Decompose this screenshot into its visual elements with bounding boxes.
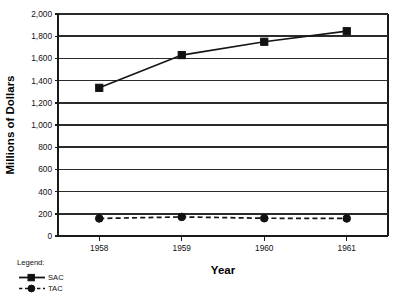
chart-container: 02004006008001,0001,2001,4001,6001,8002,… — [0, 0, 400, 298]
data-point-tac-1961 — [343, 215, 351, 223]
legend-entry-sac: SAC — [19, 273, 64, 282]
legend-label-sac: SAC — [48, 273, 64, 282]
y-axis-tick-label: 0 — [47, 231, 52, 241]
y-axis-title: Millions of Dollars — [4, 75, 16, 174]
data-point-sac-1958 — [96, 84, 103, 91]
data-point-sac-1959 — [178, 51, 185, 58]
y-axis-tick-label: 2,000 — [31, 9, 52, 19]
y-axis-tick-label: 1,200 — [31, 98, 52, 108]
x-axis-tick-label: 1958 — [90, 243, 109, 253]
y-axis-tick-label: 1,800 — [31, 31, 52, 41]
legend-marker-circle-tac — [28, 285, 35, 292]
legend-heading: Legend: — [17, 258, 44, 267]
y-axis-tick-label: 1,600 — [31, 53, 52, 63]
data-point-tac-1959 — [178, 213, 186, 221]
y-axis-tick-label: 200 — [38, 209, 52, 219]
line-chart: 02004006008001,0001,2001,4001,6001,8002,… — [0, 0, 400, 298]
x-axis-tick-label: 1960 — [255, 243, 274, 253]
legend-marker-square-sac — [28, 274, 34, 280]
x-axis-title: Year — [211, 264, 236, 276]
x-axis-tick-label: 1959 — [173, 243, 192, 253]
y-axis-tick-label: 800 — [38, 142, 52, 152]
legend-label-tac: TAC — [48, 284, 63, 293]
x-axis-tick-labels-group: 1958195919601961 — [90, 243, 356, 253]
y-axis-tick-label: 400 — [38, 187, 52, 197]
data-point-sac-1961 — [343, 28, 350, 35]
legend-entry-tac: TAC — [19, 284, 63, 293]
y-axis-tick-label: 600 — [38, 164, 52, 174]
legend: Legend: SAC TAC — [17, 258, 64, 293]
y-axis-tick-label: 1,400 — [31, 76, 52, 86]
data-point-sac-1960 — [261, 38, 268, 45]
x-axis-tick-label: 1961 — [338, 243, 357, 253]
y-axis-tick-labels-group: 02004006008001,0001,2001,4001,6001,8002,… — [31, 9, 52, 241]
data-point-tac-1958 — [95, 215, 103, 223]
data-point-tac-1960 — [260, 214, 268, 222]
y-axis-tick-label: 1,000 — [31, 120, 52, 130]
